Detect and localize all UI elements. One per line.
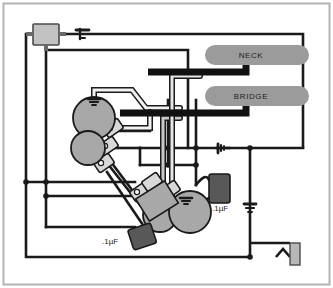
pot-tone-neck-body[interactable]: [71, 131, 105, 165]
neck-pickup-label: NECK: [239, 51, 264, 60]
tone-cap-bridge-body[interactable]: [209, 174, 230, 203]
selector-switch-body[interactable]: [33, 24, 59, 45]
junction-dot: [247, 145, 253, 151]
output-jack-body[interactable]: [290, 243, 300, 265]
bridge-pickup-label: BRIDGE: [234, 92, 268, 101]
diagram-svg: NECK BRIDGE: [0, 0, 333, 288]
junction-dot: [193, 145, 199, 151]
pot-lug-hole: [134, 189, 139, 194]
tone-cap-bridge-label: .1µF: [212, 204, 228, 213]
selector-switch-terminal-right: [59, 32, 66, 36]
junction-dot: [193, 162, 199, 168]
tone-cap-neck-label: .1µF: [102, 237, 118, 246]
junction-dot: [43, 193, 49, 199]
selector-switch-terminal-left: [26, 32, 33, 36]
wiring-diagram-canvas: NECK BRIDGE: [0, 0, 333, 288]
junction-dot: [247, 254, 253, 260]
junction-dot: [23, 179, 29, 185]
junction-dot: [43, 179, 49, 185]
selector-switch-terminal-bottom: [44, 45, 48, 51]
